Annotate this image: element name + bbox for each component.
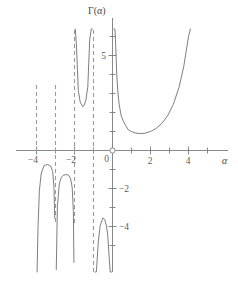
curve-branch-neg3-neg2 bbox=[56, 175, 74, 270]
tick-label-group: −4 −2 2 4 5 −2 −4 0 bbox=[28, 51, 191, 232]
plot-canvas: −4 −2 2 4 5 −2 −4 0 Γ(α) α bbox=[0, 0, 238, 281]
curve-branch-neg4-neg3 bbox=[37, 164, 55, 272]
curve-branch-neg2-neg1 bbox=[75, 29, 92, 107]
ytick-label-5: 5 bbox=[101, 51, 106, 61]
gamma-function-figure: −4 −2 2 4 5 −2 −4 0 Γ(α) α bbox=[0, 0, 238, 281]
xtick-label-4: 4 bbox=[186, 156, 191, 166]
ytick-label-neg2: −2 bbox=[119, 184, 129, 194]
ytick-label-neg4: −4 bbox=[119, 222, 129, 232]
xtick-label-neg4: −4 bbox=[28, 155, 38, 165]
origin-label: 0 bbox=[104, 154, 109, 164]
xtick-label-2: 2 bbox=[148, 156, 153, 166]
xtick-label-neg2: −2 bbox=[66, 155, 76, 165]
axes-group bbox=[16, 18, 228, 272]
curve-branch-neg1-0 bbox=[95, 218, 112, 272]
y-axis-label: Γ(α) bbox=[88, 5, 106, 17]
curve-branch-positive bbox=[114, 29, 190, 134]
origin-marker bbox=[110, 148, 115, 153]
x-axis-label: α bbox=[222, 155, 228, 166]
asymptote-group bbox=[37, 30, 94, 272]
